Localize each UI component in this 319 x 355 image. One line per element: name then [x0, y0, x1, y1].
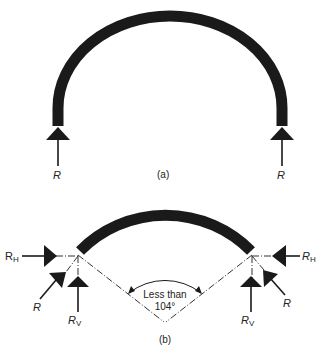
caption-a: (a) [157, 169, 169, 180]
rv-arrow-head-icon [67, 276, 89, 287]
right-rv-label: RV [241, 314, 255, 328]
right-reaction-label-a: R [277, 169, 285, 181]
angle-arrow-right-icon [195, 286, 202, 294]
arch-reactions-diagram: R R (a) [0, 0, 319, 355]
rv-arrow-head-icon [240, 276, 262, 287]
left-support-a [46, 127, 70, 166]
figure-b: RH R RV RH R RV Less than 104° (b) [5, 215, 316, 345]
left-rh-label: RH [5, 250, 19, 264]
caption-b: (b) [159, 334, 171, 345]
r-arrow-shaft [40, 280, 56, 299]
support-triangle-icon [46, 127, 70, 140]
figure-a: R R (a) [46, 16, 294, 181]
semicircular-arch [58, 16, 282, 126]
right-rh-label: RH [302, 250, 316, 264]
right-support-b [240, 245, 300, 312]
right-support-a [270, 127, 294, 166]
angle-label-line2: 104° [155, 301, 176, 312]
support-triangle-icon [270, 127, 294, 140]
angle-arrow-left-icon [128, 286, 135, 294]
left-r-label: R [33, 301, 41, 313]
left-rv-label: RV [68, 314, 82, 328]
r-arrow-shaft [270, 278, 285, 295]
segmental-arch [80, 215, 251, 251]
angle-label-line1: Less than [143, 289, 186, 300]
right-r-label: R [283, 297, 291, 309]
left-reaction-label-a: R [53, 169, 61, 181]
rh-arrow-head-icon [272, 245, 286, 267]
rh-arrow-head-icon [44, 245, 57, 267]
